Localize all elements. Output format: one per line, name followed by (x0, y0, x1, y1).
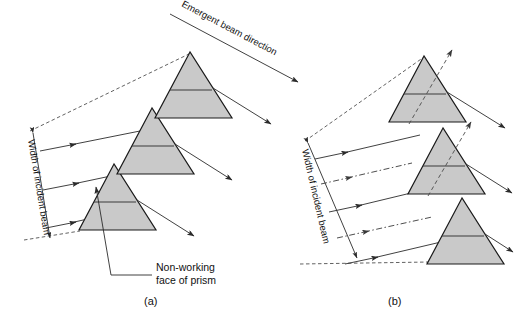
prism (408, 128, 485, 194)
figure-container: Emergent beam direction Width of inciden… (0, 0, 515, 325)
non-working-face-label-line1: Non-working (156, 261, 215, 273)
beam-envelope-upper-guide (30, 53, 191, 131)
panel-b: Width of incident beam (300, 50, 513, 307)
caption-panel-a: (a) (144, 295, 157, 307)
incident-ray-dashdot-tail (364, 217, 432, 232)
prism (427, 198, 504, 264)
prism (389, 56, 466, 122)
incident-ray-tail (343, 135, 420, 153)
prism-array-diagram: Emergent beam direction Width of inciden… (0, 0, 515, 325)
beam-envelope-lower-guide-b (300, 262, 430, 264)
non-working-face-label-line2: face of prism (156, 274, 216, 286)
emergent-beam-direction-label: Emergent beam direction (180, 0, 279, 57)
width-of-incident-beam-label-a: Width of incident beam (26, 139, 53, 236)
caption-panel-b: (b) (388, 295, 401, 307)
incident-ray-dashdot-tail (347, 163, 412, 178)
prism (155, 52, 232, 118)
panel-a: Emergent beam direction Width of inciden… (24, 0, 298, 307)
